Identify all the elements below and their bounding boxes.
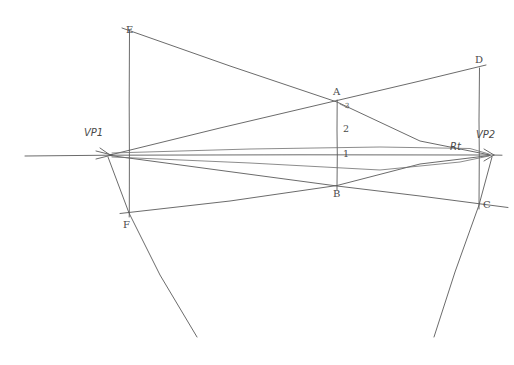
descending-line-vp1-tail bbox=[108, 157, 197, 337]
label-rt: Rt bbox=[450, 142, 461, 152]
label-f: F bbox=[123, 220, 130, 230]
label-d: D bbox=[475, 55, 483, 65]
label-b: B bbox=[333, 189, 340, 199]
label-measure-3: 3 bbox=[345, 103, 349, 110]
perspective-drawing bbox=[0, 0, 514, 365]
label-c: C bbox=[483, 200, 491, 210]
receding-line-vp2-to-e bbox=[122, 28, 490, 155]
label-vp1: VP1 bbox=[84, 128, 103, 138]
label-a: A bbox=[333, 87, 340, 97]
label-vp2: VP2 bbox=[476, 130, 495, 140]
descending-line-vp2-tail bbox=[434, 157, 492, 337]
receding-line-vp1-upper-aux bbox=[112, 147, 489, 154]
label-measure-2: 2 bbox=[343, 124, 349, 134]
vp1-tick-marks bbox=[96, 148, 112, 159]
horizon-line bbox=[25, 155, 502, 156]
receding-line-vp1-to-d bbox=[110, 65, 486, 155]
label-e: E bbox=[126, 25, 133, 35]
label-measure-1: 1 bbox=[343, 149, 349, 159]
diagram-canvas: VP1 VP2 Rt A B C D E F 1 2 3 bbox=[0, 0, 514, 365]
